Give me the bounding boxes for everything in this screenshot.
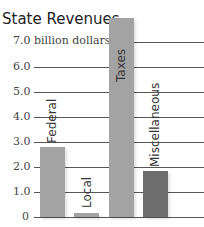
label-taxes: Taxes [115,49,127,82]
chart-title: State Revenues [2,10,120,28]
ytick-1: 1.0 [13,186,31,198]
gridline-7 [134,42,204,43]
bar-federal [40,147,65,217]
ytick-3: 3.0 [13,136,31,148]
ytick-7: 7.0 billion dollars [13,35,110,47]
label-federal: Federal [46,99,58,143]
bar-miscellaneous [143,171,168,217]
bar-taxes [109,18,134,217]
ytick-6: 6.0 [13,61,31,73]
ytick-5: 5.0 [13,86,31,98]
ytick-4: 4.0 [13,111,31,123]
label-local: Local [81,177,93,208]
bar-local [74,213,99,217]
label-miscellaneous: Miscellaneous [149,83,161,167]
baseline [34,217,204,218]
ytick-2: 2.0 [13,161,31,173]
ytick-0: 0 [22,211,29,223]
